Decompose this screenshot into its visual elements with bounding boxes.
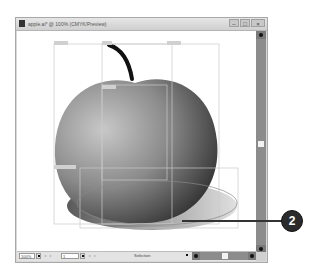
document-icon	[19, 20, 25, 27]
zoom-level-field[interactable]: 100%	[19, 253, 35, 259]
artboard-number-field[interactable]: 1	[61, 253, 79, 259]
minimize-button[interactable]: –	[229, 19, 239, 27]
vertical-scroll-thumb[interactable]	[258, 141, 264, 147]
title-bar[interactable]: apple.ai* @ 100% (CMYK/Preview) – □ ×	[16, 18, 267, 31]
prev-artboard-buttons[interactable]: ◂ ◂	[44, 253, 52, 259]
current-tool-status: Selection	[134, 253, 150, 259]
horizontal-scroll-thumb[interactable]	[222, 253, 228, 259]
document-window: apple.ai* @ 100% (CMYK/Preview) – □ ×	[15, 17, 268, 263]
apple-stem	[109, 45, 132, 79]
scroll-left-arrow-icon[interactable]	[192, 252, 200, 260]
next-artboard-buttons[interactable]: ▸ ▸	[89, 253, 97, 259]
apple-body	[55, 79, 218, 223]
status-bar: 100% ◂ ◂ 1 ▸ ▸ Selection	[17, 251, 257, 261]
maximize-button[interactable]: □	[240, 19, 250, 27]
callout-badge: 2	[281, 210, 303, 232]
resize-corner[interactable]	[256, 252, 266, 261]
callout-leader-line	[182, 220, 282, 222]
window-title: apple.ai* @ 100% (CMYK/Preview)	[28, 19, 106, 29]
horizontal-scrollbar[interactable]	[192, 252, 256, 260]
scroll-right-arrow-icon[interactable]	[248, 252, 256, 260]
close-button[interactable]: ×	[251, 19, 265, 27]
scroll-up-arrow-icon[interactable]	[256, 31, 266, 39]
artboard-dropdown-button[interactable]	[80, 253, 85, 259]
zoom-dropdown-button[interactable]	[36, 253, 41, 259]
status-menu-arrow[interactable]	[185, 253, 190, 259]
